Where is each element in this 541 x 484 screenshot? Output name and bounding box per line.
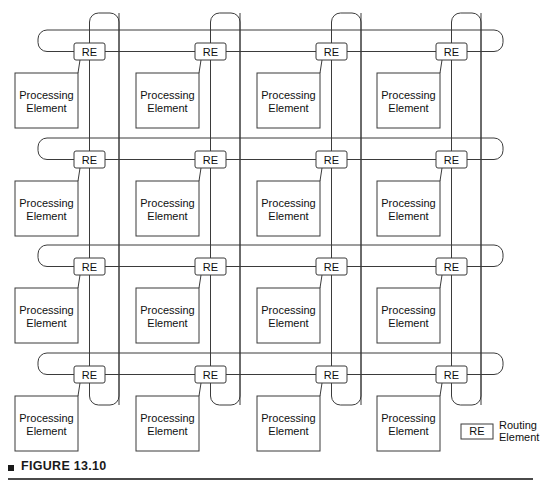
processing-element-label-line1-r1-c1: Processing xyxy=(140,197,194,209)
processing-element-box-r0-c2[interactable] xyxy=(257,73,320,128)
node-r1-c3: ProcessingElementRE xyxy=(377,151,467,236)
processing-element-box-r1-c1[interactable] xyxy=(136,181,199,236)
processing-element-label-line2-r2-c1: Element xyxy=(147,317,187,329)
processing-element-box-r3-c1[interactable] xyxy=(136,396,199,451)
routing-element-label-r3-c3: RE xyxy=(444,369,459,381)
node-r2-c0: ProcessingElementRE xyxy=(15,258,105,343)
processing-element-label-line1-r0-c0: Processing xyxy=(19,89,73,101)
processing-element-box-r2-c1[interactable] xyxy=(136,288,199,343)
re-pe-link-r0-c1 xyxy=(199,60,201,73)
routing-element-label-r0-c2: RE xyxy=(324,46,339,58)
re-pe-link-r0-c3 xyxy=(440,60,442,73)
node-r1-c0: ProcessingElementRE xyxy=(15,151,105,236)
processing-element-box-r2-c3[interactable] xyxy=(377,288,440,343)
processing-element-box-r3-c2[interactable] xyxy=(257,396,320,451)
processing-element-label-line2-r3-c2: Element xyxy=(268,425,308,437)
node-r2-c2: ProcessingElementRE xyxy=(257,258,347,343)
caption-bullet-icon xyxy=(8,465,14,471)
re-pe-link-r1-c0 xyxy=(78,168,80,181)
re-pe-link-r3-c3 xyxy=(440,383,442,396)
processing-element-label-line1-r2-c0: Processing xyxy=(19,304,73,316)
processing-element-box-r1-c2[interactable] xyxy=(257,181,320,236)
processing-element-label-line1-r3-c1: Processing xyxy=(140,412,194,424)
re-pe-link-r2-c0 xyxy=(78,275,80,288)
re-pe-link-r3-c1 xyxy=(199,383,201,396)
processing-element-label-line1-r0-c2: Processing xyxy=(261,89,315,101)
processing-element-box-r1-c3[interactable] xyxy=(377,181,440,236)
processing-element-label-line2-r1-c2: Element xyxy=(268,210,308,222)
processing-element-label-line2-r3-c0: Element xyxy=(26,425,66,437)
v-wraparound-col3 xyxy=(452,13,482,405)
node-r0-c2: ProcessingElementRE xyxy=(257,43,347,128)
legend-layer: RERoutingElement xyxy=(461,419,539,443)
node-r3-c1: ProcessingElementRE xyxy=(136,366,226,451)
processing-element-label-line2-r1-c3: Element xyxy=(388,210,428,222)
processing-element-box-r0-c0[interactable] xyxy=(15,73,78,128)
processing-element-label-line2-r3-c3: Element xyxy=(388,425,428,437)
processing-element-label-line1-r3-c2: Processing xyxy=(261,412,315,424)
routing-element-label-r2-c2: RE xyxy=(324,261,339,273)
processing-element-label-line1-r3-c3: Processing xyxy=(381,412,435,424)
processing-element-label-line2-r2-c3: Element xyxy=(388,317,428,329)
routing-element-label-r3-c2: RE xyxy=(324,369,339,381)
routing-element-label-r3-c0: RE xyxy=(82,369,97,381)
h-wraparound-row2 xyxy=(38,245,503,267)
processing-element-box-r1-c0[interactable] xyxy=(15,181,78,236)
node-r3-c0: ProcessingElementRE xyxy=(15,366,105,451)
node-r2-c1: ProcessingElementRE xyxy=(136,258,226,343)
processing-element-label-line2-r3-c1: Element xyxy=(147,425,187,437)
re-pe-link-r2-c3 xyxy=(440,275,442,288)
processing-element-label-line2-r2-c0: Element xyxy=(26,317,66,329)
node-r0-c0: ProcessingElementRE xyxy=(15,43,105,128)
routing-element-label-r1-c0: RE xyxy=(82,154,97,166)
processing-element-label-line1-r2-c1: Processing xyxy=(140,304,194,316)
node-r1-c2: ProcessingElementRE xyxy=(257,151,347,236)
processing-element-label-line2-r0-c2: Element xyxy=(268,102,308,114)
h-wraparound-row1 xyxy=(38,138,503,160)
processing-element-label-line1-r0-c3: Processing xyxy=(381,89,435,101)
processing-element-label-line1-r0-c1: Processing xyxy=(140,89,194,101)
re-pe-link-r1-c2 xyxy=(320,168,322,181)
node-r1-c1: ProcessingElementRE xyxy=(136,151,226,236)
node-layer: ProcessingElementREProcessingElementREPr… xyxy=(15,43,467,451)
processing-element-label-line2-r1-c1: Element xyxy=(147,210,187,222)
routing-element-label-r0-c3: RE xyxy=(444,46,459,58)
h-wraparound-row3 xyxy=(38,353,503,375)
re-pe-link-r1-c1 xyxy=(199,168,201,181)
processing-element-box-r0-c3[interactable] xyxy=(377,73,440,128)
figure-caption-bar: FIGURE 13.10 xyxy=(8,459,533,481)
figure-caption-text: FIGURE 13.10 xyxy=(21,459,107,473)
processing-element-label-line2-r0-c3: Element xyxy=(388,102,428,114)
routing-element-label-r1-c3: RE xyxy=(444,154,459,166)
legend-label-line2: Element xyxy=(499,431,539,443)
v-wraparound-col1 xyxy=(211,13,241,405)
processing-element-label-line1-r2-c3: Processing xyxy=(381,304,435,316)
processing-element-label-line1-r3-c0: Processing xyxy=(19,412,73,424)
processing-element-label-line1-r1-c3: Processing xyxy=(381,197,435,209)
processing-element-box-r0-c1[interactable] xyxy=(136,73,199,128)
routing-element-label-r1-c2: RE xyxy=(324,154,339,166)
processing-element-label-line2-r0-c1: Element xyxy=(147,102,187,114)
re-pe-link-r3-c2 xyxy=(320,383,322,396)
re-pe-link-r2-c1 xyxy=(199,275,201,288)
routing-element-label-r3-c1: RE xyxy=(203,369,218,381)
re-pe-link-r3-c0 xyxy=(78,383,80,396)
figure-container: ProcessingElementREProcessingElementREPr… xyxy=(0,0,541,484)
legend-re-symbol: RE xyxy=(469,425,484,437)
re-pe-link-r0-c2 xyxy=(320,60,322,73)
processing-element-box-r3-c0[interactable] xyxy=(15,396,78,451)
routing-element-label-r1-c1: RE xyxy=(203,154,218,166)
processing-element-label-line1-r1-c2: Processing xyxy=(261,197,315,209)
node-r0-c3: ProcessingElementRE xyxy=(377,43,467,128)
re-pe-link-r0-c0 xyxy=(78,60,80,73)
routing-element-label-r2-c3: RE xyxy=(444,261,459,273)
processing-element-box-r3-c3[interactable] xyxy=(377,396,440,451)
processing-element-label-line2-r2-c2: Element xyxy=(268,317,308,329)
legend-label-line1: Routing xyxy=(499,419,537,431)
h-wraparound-row0 xyxy=(38,30,503,52)
routing-element-label-r2-c0: RE xyxy=(82,261,97,273)
node-r2-c3: ProcessingElementRE xyxy=(377,258,467,343)
re-pe-link-r1-c3 xyxy=(440,168,442,181)
processing-element-box-r2-c0[interactable] xyxy=(15,288,78,343)
processing-element-box-r2-c2[interactable] xyxy=(257,288,320,343)
